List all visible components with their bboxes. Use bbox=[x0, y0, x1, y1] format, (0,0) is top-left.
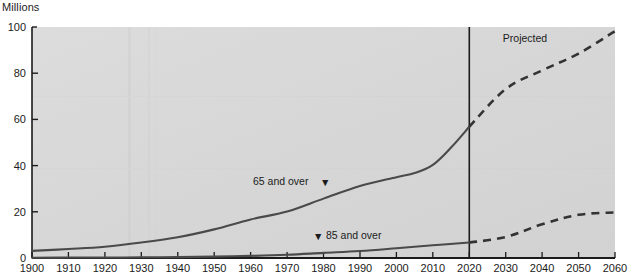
x-tick-label: 1970 bbox=[275, 262, 299, 274]
x-tick-label: 2060 bbox=[603, 262, 627, 274]
chart-canvas: 100 80 60 40 20 0 bbox=[0, 0, 629, 278]
x-tick-label: 1940 bbox=[166, 262, 190, 274]
x-tick-label: 1930 bbox=[129, 262, 153, 274]
x-tick-label: 2000 bbox=[384, 262, 408, 274]
x-tick-label: 1980 bbox=[311, 262, 335, 274]
y-tick-label: 20 bbox=[14, 206, 26, 218]
x-tick-label: 1920 bbox=[93, 262, 117, 274]
x-tick-label: 2050 bbox=[566, 262, 590, 274]
x-tick-label: 1960 bbox=[238, 262, 262, 274]
x-tick-label: 2020 bbox=[457, 262, 481, 274]
x-tick-label: 1950 bbox=[202, 262, 226, 274]
plot-area-wrapper: 100 80 60 40 20 0 bbox=[0, 0, 629, 278]
x-tick-label: 2010 bbox=[421, 262, 445, 274]
x-tick-label: 2040 bbox=[530, 262, 554, 274]
x-tick-label: 1910 bbox=[56, 262, 80, 274]
series-65-annotation-label: 65 and over bbox=[253, 175, 309, 187]
series-85-annotation-marker-icon: ▼ bbox=[313, 230, 323, 242]
y-tick-label: 80 bbox=[14, 67, 26, 79]
y-tick-label: 100 bbox=[8, 21, 26, 33]
y-tick-label: 60 bbox=[14, 113, 26, 125]
y-tick-label: 40 bbox=[14, 160, 26, 172]
projected-label: Projected bbox=[503, 32, 548, 44]
x-tick-label: 1990 bbox=[348, 262, 372, 274]
x-tick-label: 2030 bbox=[493, 262, 517, 274]
series-65-annotation-marker-icon: ▼ bbox=[320, 176, 330, 188]
series-85-annotation-label: 85 and over bbox=[326, 229, 382, 241]
x-tick-label: 1900 bbox=[20, 262, 44, 274]
plot-background bbox=[32, 27, 615, 258]
population-projection-chart: Millions bbox=[0, 0, 629, 278]
